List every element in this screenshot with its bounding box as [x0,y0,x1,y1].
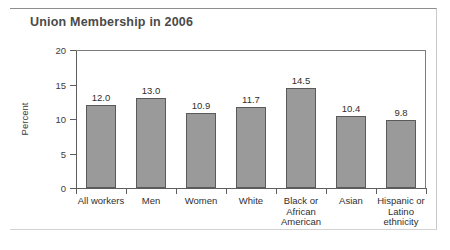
x-tick-label-line: ethnicity [365,217,437,228]
bar-group[interactable]: 10.4 [326,50,376,188]
y-tick-label: 20 [26,45,66,56]
bar-group[interactable]: 10.9 [176,50,226,188]
x-tick-mark [226,188,227,194]
x-axis-line [76,188,427,189]
bar[interactable] [136,98,166,188]
bar[interactable] [86,105,116,188]
bar-group[interactable]: 14.5 [276,50,326,188]
y-tick-label: 5 [26,148,66,159]
bar-value-label: 13.0 [126,85,176,96]
bar-group[interactable]: 9.8 [376,50,426,188]
bar-value-label: 10.9 [176,100,226,111]
bar[interactable] [236,107,266,188]
x-tick-mark [176,188,177,194]
y-tick-label: 10 [26,114,66,125]
x-tick-mark [376,188,377,194]
bar[interactable] [286,88,316,188]
x-tick-label: Hispanic orLatinoethnicity [365,196,437,228]
y-tick-label: 0 [26,183,66,194]
bar[interactable] [186,113,216,188]
bar-value-label: 14.5 [276,75,326,86]
x-tick-mark [276,188,277,194]
bar-group[interactable]: 13.0 [126,50,176,188]
x-tick-mark [426,188,427,194]
bar-value-label: 10.4 [326,103,376,114]
bar-value-label: 12.0 [76,92,126,103]
bar[interactable] [386,120,416,188]
bar[interactable] [336,116,366,188]
x-tick-mark [76,188,77,194]
bar-group[interactable]: 12.0 [76,50,126,188]
chart-figure: Union Membership in 2006 Percent 0510152… [0,0,450,250]
x-tick-label-line: American [265,217,337,228]
bar-group[interactable]: 11.7 [226,50,276,188]
bar-value-label: 9.8 [376,107,426,118]
bar-value-label: 11.7 [226,94,276,105]
plot-area: 12.013.010.911.714.510.49.8 [76,50,426,188]
x-tick-mark [126,188,127,194]
chart-title: Union Membership in 2006 [30,15,193,29]
x-tick-label-line: Hispanic or [365,196,437,207]
y-tick-label: 15 [26,79,66,90]
x-tick-mark [326,188,327,194]
